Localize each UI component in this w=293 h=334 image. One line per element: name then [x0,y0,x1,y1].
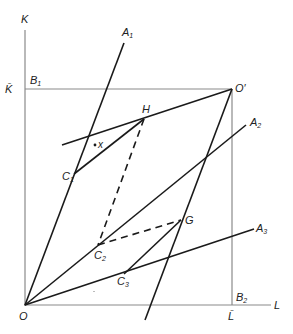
label-x: x [97,139,104,150]
label-a3: A3 [255,222,267,235]
label-h: H [142,103,150,115]
label-k-bar: K̄ [5,83,13,95]
label-origin-prime: O′ [235,82,247,94]
stray-mark [93,291,95,292]
label-l-bar: L̄ [228,310,234,322]
label-l: L [274,299,280,311]
edgeworth-box-diagram: K L K̄ L̄ O O′ B1 B2 A1 A2 A3 H G x C1 C… [0,0,293,334]
ray-a3 [25,229,254,305]
label-k: K [21,13,29,25]
label-a2: A2 [249,116,261,129]
ray-a2 [25,125,246,305]
label-g: G [185,214,194,226]
label-b2: B2 [236,291,247,304]
label-b1: B1 [30,74,41,87]
label-c2: C2 [94,249,106,262]
point-x-dot [94,144,97,147]
line-oprime-h [62,89,232,145]
label-a1: A1 [121,26,133,39]
label-origin: O [19,310,28,322]
label-c1: C1 [62,170,74,183]
line-oprime-steep [145,89,232,320]
label-c3: C3 [117,275,129,288]
